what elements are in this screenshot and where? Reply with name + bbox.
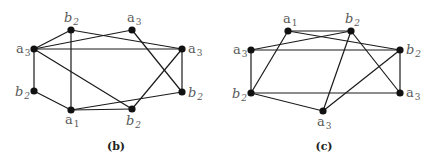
edge-a1_bot-b2_bot [71,109,132,110]
vertex-label-b2_left: b2 [232,86,247,103]
vertex-label-a3_left: a3 [233,42,248,59]
edge-a3_top-b2_right [132,30,182,92]
graph-b-edges [34,30,182,110]
vertex-label-a3_right: a3 [188,41,203,58]
edge-a3_left-b2_top [34,30,71,49]
vertex-label-b2_top: b2 [345,11,360,28]
vertex-label-b2_bot: b2 [126,113,141,130]
vertex-b2_bot [128,105,135,112]
edge-a1_bot-b2_right [71,92,182,110]
vertex-label-a1_top: a1 [283,11,298,28]
graph-c: a1b2a3b2b2a3a3 (c) [232,11,421,153]
edge-b2_top-a3_bot [323,31,351,111]
edge-b2_left-a3_bot [251,93,323,111]
vertex-label-a1_bot: a1 [65,112,80,129]
graph-c-nodes [247,27,403,114]
vertex-label-b2_top: b2 [64,10,79,27]
vertex-label-b2_left: b2 [15,84,30,101]
vertex-b2_left [30,87,37,94]
edge-a3_left-a3_top [34,30,132,49]
vertex-label-a3_right: a3 [406,85,421,102]
vertex-label-a3_top: a3 [127,10,142,27]
vertex-a3_top [128,26,135,33]
vertex-b2_right [178,88,185,95]
graph-c-labels: a1b2a3b2b2a3a3 [232,11,421,131]
vertex-b2_top [67,26,74,33]
vertex-a1_top [284,27,291,34]
graph-b: b2a3a3a3b2b2a1b2 (b) [15,10,203,153]
edge-b2_top-a3_right [71,30,182,49]
vertex-label-b2_right: b2 [188,85,203,102]
graph-c-edges [251,31,400,111]
vertex-a3_left [30,45,37,52]
edge-b2_left-a1_bot [34,91,71,110]
edge-a3_left-b2_bot [34,49,132,109]
edge-b2_right-a3_bot [323,50,400,111]
graph-b-caption: (b) [107,140,125,153]
vertex-a3_left [247,46,254,53]
vertex-b2_top [347,27,354,34]
graph-b-labels: b2a3a3a3b2b2a1b2 [15,10,203,130]
vertex-label-a3_bot: a3 [317,114,332,131]
bipartite-graphs-figure: b2a3a3a3b2b2a1b2 (b) a1b2a3b2b2a3a3 (c) [0,0,434,166]
vertex-label-a3_left: a3 [16,41,31,58]
vertex-a3_right [178,45,185,52]
edge-a1_top-b2_right [288,31,400,50]
vertex-a3_right [396,89,403,96]
vertex-b2_left [247,89,254,96]
graph-c-caption: (c) [315,140,332,153]
edge-a1_top-b2_left [251,31,288,93]
vertex-label-b2_right: b2 [406,42,421,59]
edge-b2_top-a3_left [251,31,351,50]
edge-a3_right-b2_bot [132,49,182,109]
vertex-b2_right [396,46,403,53]
